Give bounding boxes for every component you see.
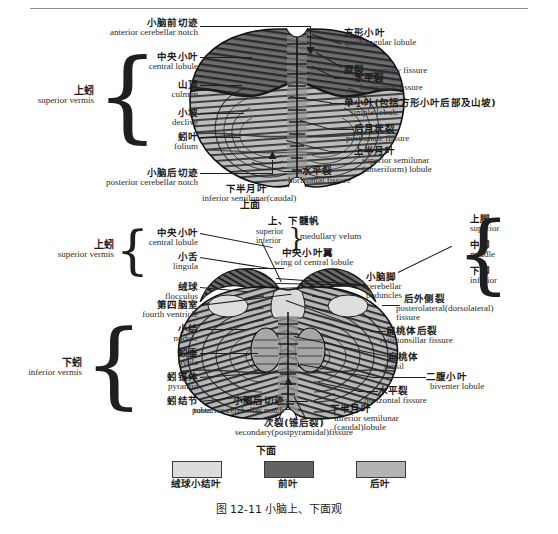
label-superior-semilunar-lobule: 上半月叶 superior semilunar (anseriform) lob… bbox=[354, 146, 432, 174]
leader-culmen bbox=[200, 85, 242, 86]
label-anterior-cerebellar-notch: 小脑前切迹 anterior cerebellar notch bbox=[8, 18, 198, 37]
brace-superior-vermis-top: { bbox=[96, 46, 159, 145]
legend-label-flocculonodular: 绒球小结叶 bbox=[150, 479, 242, 489]
leader-posterior-notch-top bbox=[200, 173, 272, 174]
label-inferior-semilunar-top: 下半月叶 inferior semilunar(caudal) bbox=[226, 184, 296, 203]
leader-posterolateral-fissure-stub bbox=[382, 305, 400, 306]
label-superior-vermis-top: 上蚓 superior vermis bbox=[0, 86, 94, 105]
brace-superior-vermis-bottom: { bbox=[116, 224, 149, 276]
leader-wing-of-central-lobule bbox=[246, 268, 284, 269]
label-retrotonsillar-fissure: 扁桃体后裂 retrotonsillar fissure bbox=[386, 326, 453, 345]
legend-swatch-flocculonodular bbox=[172, 461, 222, 478]
label-horizontal-fissure-top: 水平裂 horizontal fissure bbox=[354, 73, 423, 92]
label-inferior-semilunar-bottom: 下半月叶 inferior semilunar (caudal)lobule bbox=[330, 404, 399, 432]
leader-horizontal-fissure-top-stub bbox=[334, 78, 354, 79]
brace-cerebellar-peduncles: { bbox=[456, 210, 511, 296]
arrow-anterior-notch bbox=[305, 45, 316, 56]
legend-swatch-posterior-lobe bbox=[356, 461, 406, 478]
leader-horizontal-fissure-top-2-stub bbox=[284, 171, 302, 172]
label-horizontal-fissure-bottom: 水平裂 horizontal fissure bbox=[378, 386, 427, 405]
legend-label-posterior-lobe: 后叶 bbox=[334, 479, 426, 489]
label-posterior-cerebellar-notch-bottom: 小脑后切迹 posterior cerebellar notch bbox=[104, 396, 284, 415]
label-simple-lobule: 单小叶(包括方形小叶后部及山坡) simple lobule bbox=[344, 98, 496, 117]
leader-retrotonsillar-fissure-stub bbox=[370, 331, 386, 332]
legend-swatch-anterior-lobe bbox=[264, 461, 314, 478]
legend-label-anterior-lobe: 前叶 bbox=[242, 479, 334, 489]
leader-posterior-notch-bottom-rise bbox=[288, 386, 289, 402]
label-tonsil: 扁桃体 tonsil bbox=[388, 352, 419, 371]
leader-simple-lobule-stub bbox=[330, 103, 344, 104]
label-posterior-cerebellar-notch-top: 小脑后切迹 posterior cerebellar notch bbox=[14, 168, 198, 187]
view-name-inferior: 下面 bbox=[256, 442, 276, 457]
label-quadrangular-lobule: 方形小叶 quadrangular lobule bbox=[344, 28, 416, 47]
label-medullary-velum-en: medullary velum bbox=[300, 232, 361, 241]
leader-uvula bbox=[200, 353, 258, 354]
label-posterolateral-fissure: 后外侧裂 posterolateral(dorsolateral) fissur… bbox=[404, 294, 493, 322]
leader-nodule bbox=[200, 329, 246, 330]
label-biventer-lobule: 二腹小叶 biventer lobule bbox=[426, 372, 484, 391]
leader-central-lobule-superior bbox=[200, 57, 252, 58]
label-superior-vermis-bottom: 上蚓 superior vermis bbox=[0, 240, 114, 259]
leader-anterior-notch bbox=[200, 26, 310, 27]
leader-horizontal-fissure-bottom-stub bbox=[358, 391, 378, 392]
label-cerebellar-peduncles: 小脑脚 cerebellar peduncles bbox=[366, 272, 402, 300]
label-medullary-velum-sub: superior inferior bbox=[256, 228, 283, 245]
leader-postlunate-fissure-stub bbox=[332, 129, 354, 130]
leader-declive bbox=[200, 113, 244, 114]
leader-folium bbox=[200, 137, 240, 138]
label-horizontal-fissure-top-2: 水平裂 horizontal fissure bbox=[302, 166, 351, 185]
label-wing-of-central-lobule: 中央小叶翼 wing of central lobule bbox=[282, 248, 353, 267]
label-inferior-vermis: 下蚓 inferior vermis bbox=[0, 358, 82, 377]
label-postlunate-fissure: 后月状裂 postlunate fissure bbox=[354, 124, 409, 143]
view-name-superior: 上面 bbox=[240, 196, 260, 211]
arrow-posterior-notch-bottom bbox=[283, 376, 294, 387]
page-top-rule bbox=[30, 8, 528, 9]
figure-page: 小脑前切迹 anterior cerebellar notch 中央小叶 cen… bbox=[0, 0, 558, 534]
leader-superior-semilunar-stub bbox=[330, 151, 354, 152]
figure-caption: 图 12-11 小脑上、下面观 bbox=[0, 500, 558, 516]
leader-biventer-lobule-stub bbox=[374, 377, 426, 378]
arrow-posterior-notch-top bbox=[267, 150, 278, 161]
